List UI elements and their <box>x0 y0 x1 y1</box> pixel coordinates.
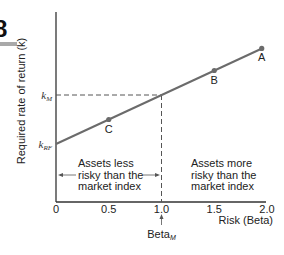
point-label-b: B <box>211 74 218 86</box>
point-label-a: A <box>258 51 266 63</box>
sml-chart: 8 Required rate of return (k) 00.51.01.5… <box>0 0 284 255</box>
point-label-c: C <box>105 123 113 135</box>
data-point-a <box>259 46 264 51</box>
beta-m-label: BetaM <box>147 228 176 241</box>
data-point-b <box>212 68 217 73</box>
y-tick-label-krf: kRF <box>39 138 53 152</box>
y-tick-label-km: kM <box>41 89 53 103</box>
region-text-line: Assets less <box>78 157 134 169</box>
region-text-line: market index <box>78 180 141 192</box>
figure-tag: 8 <box>0 15 7 42</box>
x-tick-label: 0 <box>53 203 59 215</box>
beta-m-marker: BetaM <box>147 214 176 241</box>
y-tick-labels: kMkRF <box>39 89 54 152</box>
left-region-annotation: Assets lessrisky than themarket index <box>78 157 143 192</box>
right-arrow-head <box>155 173 160 177</box>
x-tick-label: 1.0 <box>154 203 169 215</box>
data-point-c <box>106 117 111 122</box>
region-text-line: market index <box>191 180 254 192</box>
x-tick-label: 0.5 <box>101 203 116 215</box>
y-axis-label: Required rate of return (k) <box>15 38 27 165</box>
region-text-line: risky than the <box>191 169 256 181</box>
data-points: CBA <box>105 46 266 135</box>
x-axis-label: Risk (Beta) <box>219 214 273 226</box>
left-arrow-head <box>58 173 63 177</box>
region-text-line: Assets more <box>191 157 252 169</box>
right-region-annotation: Assets morerisky than themarket index <box>191 157 256 192</box>
security-market-line <box>56 48 263 144</box>
region-text-line: risky than the <box>78 169 143 181</box>
